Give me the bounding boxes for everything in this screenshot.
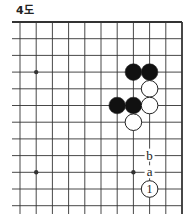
black-stone [125,64,142,81]
white-stone [125,114,142,131]
move-number: 1 [147,182,153,196]
go-board: ba1 [0,0,195,220]
star-point [34,170,38,174]
white-stone [141,81,158,98]
black-stone [109,97,126,114]
black-stone [141,64,158,81]
black-stone [125,97,142,114]
point-label-b: b [146,148,153,163]
star-point [34,70,38,74]
point-label-a: a [147,164,153,179]
white-stone [141,97,158,114]
star-point [131,170,135,174]
